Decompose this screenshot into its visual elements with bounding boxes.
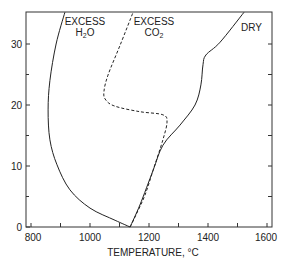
x-tick-label: 1400 [197,232,220,243]
y-tick-label: 10 [11,161,23,172]
x-axis-title: TEMPERATURE, °C [107,247,199,258]
svg-text:EXCESS: EXCESS [134,16,175,27]
x-tick-label: 1200 [138,232,161,243]
x-tick-label: 800 [25,232,42,243]
x-tick-label: 1600 [255,232,278,243]
curve-dry [130,12,244,227]
plot-frame [26,12,272,227]
x-axis-ticks [31,223,267,227]
phase-diagram-chart: 0 10 20 30 800 1000 1200 1400 1600 TEMPE… [0,0,289,269]
curve-excess-h2o [48,12,130,227]
curves [48,12,244,227]
label-excess-h2o: EXCESS H2O [65,16,106,39]
svg-text:CO2: CO2 [145,27,164,39]
label-excess-co2: EXCESS CO2 [134,16,175,39]
y-tick-label: 30 [11,39,23,50]
curve-excess-co2 [104,12,167,227]
svg-text:H2O: H2O [76,27,95,39]
y-axis-ticks [26,44,272,227]
svg-text:EXCESS: EXCESS [65,16,106,27]
y-tick-label: 0 [16,222,22,233]
label-dry: DRY [241,22,262,33]
y-tick-label: 20 [11,100,23,111]
x-tick-label: 1000 [79,232,102,243]
